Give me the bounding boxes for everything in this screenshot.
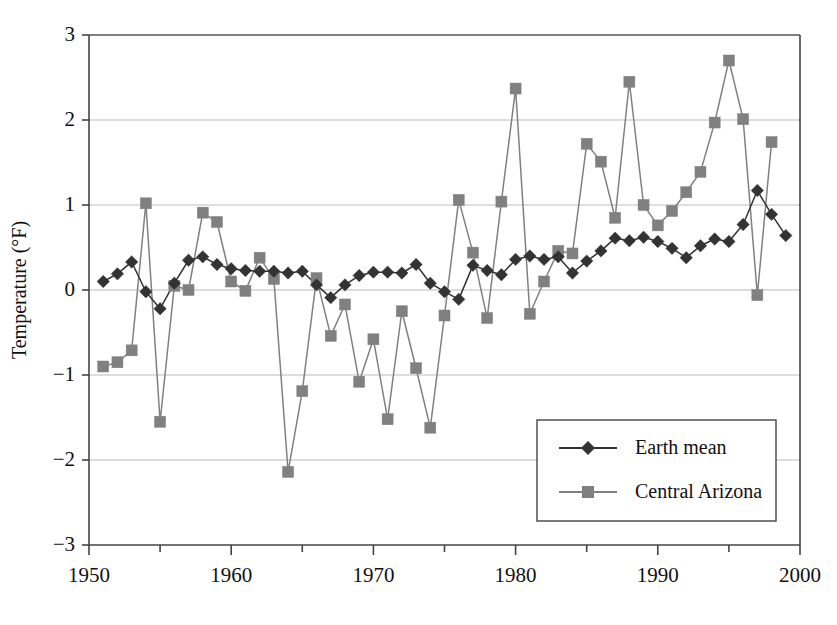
y-axis-ticks: [82, 35, 89, 545]
y-tick-label: 3: [65, 22, 76, 46]
y-tick-label: 2: [65, 107, 76, 131]
data-point-central-arizona: [240, 285, 251, 296]
data-point-central-arizona: [354, 376, 365, 387]
data-point-central-arizona: [667, 205, 678, 216]
data-point-earth-mean: [666, 242, 678, 254]
data-point-central-arizona: [411, 363, 422, 374]
data-point-central-arizona: [197, 207, 208, 218]
data-point-central-arizona: [211, 217, 222, 228]
data-point-central-arizona: [112, 357, 123, 368]
data-point-earth-mean: [765, 208, 777, 220]
x-tick-label: 2000: [779, 563, 821, 587]
data-point-earth-mean: [751, 184, 763, 196]
data-point-earth-mean: [780, 229, 792, 241]
data-point-central-arizona: [382, 414, 393, 425]
data-point-central-arizona: [98, 361, 109, 372]
data-point-earth-mean: [652, 235, 664, 247]
x-tick-label: 1980: [495, 563, 537, 587]
data-point-central-arizona: [496, 196, 507, 207]
data-point-central-arizona: [709, 117, 720, 128]
data-point-central-arizona: [539, 276, 550, 287]
data-point-central-arizona: [297, 386, 308, 397]
data-point-central-arizona: [524, 308, 535, 319]
data-point-earth-mean: [453, 293, 465, 305]
data-point-earth-mean: [438, 286, 450, 298]
data-point-earth-mean: [353, 269, 365, 281]
x-tick-label: 1990: [637, 563, 679, 587]
data-point-central-arizona: [140, 198, 151, 209]
chart-legend: Earth meanCentral Arizona: [537, 420, 776, 521]
y-axis-title: Temperature (°F): [8, 221, 31, 359]
y-axis-tick-labels: −3−2−10123: [53, 22, 75, 556]
x-tick-label: 1960: [210, 563, 252, 587]
x-axis-tick-labels: 195019601970198019902000: [68, 563, 821, 587]
data-point-central-arizona: [482, 313, 493, 324]
y-tick-label: 1: [65, 192, 76, 216]
temperature-line-chart: 195019601970198019902000 −3−2−10123 Temp…: [0, 0, 837, 625]
data-point-central-arizona: [738, 114, 749, 125]
data-point-earth-mean: [97, 275, 109, 287]
data-point-earth-mean: [197, 251, 209, 263]
x-tick-label: 1950: [68, 563, 110, 587]
chart-canvas: 195019601970198019902000 −3−2−10123 Temp…: [0, 0, 837, 625]
series-line-central-arizona: [103, 61, 771, 472]
data-point-central-arizona: [723, 55, 734, 66]
data-point-central-arizona: [695, 166, 706, 177]
data-point-central-arizona: [325, 330, 336, 341]
data-point-central-arizona: [453, 194, 464, 205]
x-tick-label: 1970: [352, 563, 394, 587]
data-point-central-arizona: [510, 83, 521, 94]
data-point-central-arizona: [581, 138, 592, 149]
data-point-central-arizona: [155, 416, 166, 427]
y-axis-title-text: Temperature (°F): [8, 221, 31, 359]
data-point-central-arizona: [567, 248, 578, 259]
x-axis-ticks: [89, 545, 800, 555]
data-point-central-arizona: [226, 276, 237, 287]
data-point-central-arizona: [368, 334, 379, 345]
data-point-central-arizona: [339, 299, 350, 310]
data-point-central-arizona: [439, 310, 450, 321]
legend-label: Earth mean: [635, 436, 727, 458]
data-point-central-arizona: [610, 212, 621, 223]
data-point-earth-mean: [637, 231, 649, 243]
data-point-central-arizona: [638, 200, 649, 211]
data-point-central-arizona: [624, 76, 635, 87]
series-lines: [103, 61, 786, 472]
data-point-earth-mean: [367, 266, 379, 278]
data-point-earth-mean: [481, 264, 493, 276]
legend-label: Central Arizona: [635, 480, 762, 502]
data-point-central-arizona: [652, 220, 663, 231]
data-point-central-arizona: [126, 345, 137, 356]
data-point-earth-mean: [538, 253, 550, 265]
data-point-central-arizona: [766, 137, 777, 148]
y-tick-label: 0: [65, 277, 76, 301]
legend-marker-square-icon: [582, 486, 594, 498]
data-point-earth-mean: [396, 267, 408, 279]
data-point-central-arizona: [595, 156, 606, 167]
data-point-earth-mean: [410, 258, 422, 270]
data-point-earth-mean: [623, 235, 635, 247]
data-point-central-arizona: [467, 247, 478, 258]
data-point-central-arizona: [425, 422, 436, 433]
data-point-earth-mean: [239, 264, 251, 276]
y-tick-label: −3: [53, 532, 75, 556]
data-point-central-arizona: [254, 252, 265, 263]
data-point-central-arizona: [396, 306, 407, 317]
y-tick-label: −2: [53, 447, 75, 471]
data-point-central-arizona: [283, 466, 294, 477]
data-point-earth-mean: [424, 277, 436, 289]
y-tick-label: −1: [53, 362, 75, 386]
data-point-earth-mean: [282, 267, 294, 279]
data-point-earth-mean: [381, 266, 393, 278]
data-point-central-arizona: [681, 187, 692, 198]
data-point-earth-mean: [211, 258, 223, 270]
data-point-central-arizona: [752, 290, 763, 301]
data-point-earth-mean: [708, 233, 720, 245]
series-markers: [97, 55, 792, 477]
data-point-central-arizona: [183, 285, 194, 296]
